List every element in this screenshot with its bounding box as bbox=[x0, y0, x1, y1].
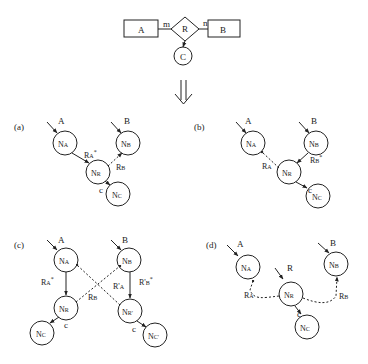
input-a-label: A bbox=[237, 239, 244, 249]
node-nr-label: NR bbox=[282, 169, 292, 178]
node-nr-label: NR bbox=[59, 305, 69, 314]
input-r-label: R bbox=[287, 263, 293, 273]
relationship-label: R bbox=[182, 24, 188, 34]
panel-a: (a) A B NA NB NR NC RA* RB c bbox=[14, 116, 140, 206]
panel-d: (d) A B R NA NB NR NC RA RB c bbox=[206, 238, 348, 339]
edge-ra-label: RA bbox=[262, 162, 272, 171]
edge-ra-label: RA bbox=[244, 291, 254, 300]
input-a-label: A bbox=[58, 235, 65, 245]
edge-c-prime-label: c bbox=[132, 324, 136, 334]
entity-a-label: A bbox=[138, 25, 145, 35]
edge-rb-label: RB bbox=[116, 163, 125, 172]
panel-c-label: (c) bbox=[14, 240, 24, 250]
node-nc-label: NC bbox=[300, 324, 310, 333]
node-na-label: NA bbox=[246, 140, 257, 149]
transform-arrow-icon bbox=[175, 80, 192, 104]
node-na-label: NA bbox=[59, 257, 70, 266]
input-b-label: B bbox=[124, 116, 130, 126]
input-b-label: B bbox=[311, 116, 317, 126]
node-nb-label: NB bbox=[329, 261, 339, 270]
panel-b: (b) A B NA NB NR NC RA RB* c bbox=[194, 116, 330, 208]
input-a-label: A bbox=[58, 116, 65, 126]
edge-ra-label: RA* bbox=[84, 149, 97, 160]
cardinality-m: m bbox=[163, 19, 170, 29]
edge-c-label: c bbox=[297, 309, 301, 319]
node-nc-label: NC bbox=[112, 191, 122, 200]
attribute-c-label: C bbox=[180, 52, 186, 62]
edge-c-label: c bbox=[308, 185, 312, 195]
input-b-label: B bbox=[330, 238, 336, 248]
input-b-label: B bbox=[122, 235, 128, 245]
edge-rb-label: RB bbox=[88, 293, 97, 302]
edge-rb-label: RB bbox=[339, 292, 348, 301]
panel-a-label: (a) bbox=[14, 122, 24, 132]
panel-c: (c) A B NA NB NR NR' NC NC' RA* RB R'A R… bbox=[14, 235, 167, 347]
node-nc-label: NC bbox=[312, 193, 322, 202]
node-na-label: NA bbox=[241, 264, 252, 273]
er-to-network-diagram: A m R n B C (a) A B NA NB NR NC RA* RB c bbox=[0, 0, 368, 364]
panel-d-label: (d) bbox=[206, 240, 217, 250]
node-nb-label: NB bbox=[122, 257, 132, 266]
cardinality-n: n bbox=[203, 18, 208, 28]
input-a-label: A bbox=[245, 116, 252, 126]
entity-b-label: B bbox=[220, 25, 226, 35]
edge-ra-label: RA* bbox=[41, 276, 54, 287]
node-nc-prime-label: NC' bbox=[148, 332, 159, 341]
diagram-canvas: A m R n B C (a) A B NA NB NR NC RA* RB c bbox=[0, 0, 368, 364]
edge-c-label: c bbox=[99, 185, 103, 195]
node-nr-label: NR bbox=[91, 169, 101, 178]
node-na-label: NA bbox=[58, 140, 69, 149]
edge-c-label: c bbox=[64, 320, 68, 330]
edge-rb-prime-label: R'B* bbox=[139, 276, 153, 287]
edge-rb-label: RB* bbox=[310, 154, 322, 165]
node-nr-label: NR bbox=[284, 291, 294, 300]
node-nc-label: NC bbox=[36, 330, 46, 339]
panel-b-label: (b) bbox=[194, 122, 205, 132]
node-nr-prime-label: NR' bbox=[122, 308, 133, 317]
node-nb-label: NB bbox=[121, 140, 131, 149]
node-nb-label: NB bbox=[309, 140, 319, 149]
edge-ra-prime-label: R'A bbox=[113, 282, 125, 291]
